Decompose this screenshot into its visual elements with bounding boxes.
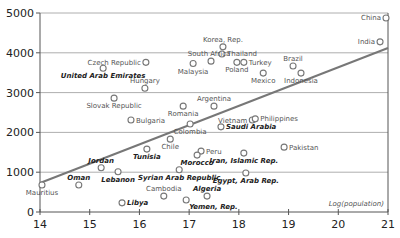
point-marker xyxy=(39,182,45,188)
point-marker xyxy=(190,61,196,67)
point-marker xyxy=(98,165,104,171)
point-label: Pakistan xyxy=(289,144,318,152)
point-marker xyxy=(115,169,121,175)
point-label: Egypt, Arab Rep. xyxy=(213,177,279,185)
point-marker xyxy=(144,146,150,152)
point-marker xyxy=(211,103,217,109)
point-label: Tunisia xyxy=(133,153,161,161)
point-marker xyxy=(218,124,224,130)
point-marker xyxy=(161,193,167,199)
point-label: Lebanon xyxy=(101,176,135,184)
point-label: Czech Republic xyxy=(88,59,141,67)
x-tick-label: 21 xyxy=(381,218,395,231)
x-axis-title: Log(population) xyxy=(329,200,385,208)
point-label: Peru xyxy=(206,148,222,156)
point-marker xyxy=(290,63,296,69)
data-point: Romania xyxy=(168,103,199,118)
data-point: Oman xyxy=(67,174,90,188)
point-marker xyxy=(167,136,173,142)
data-point: Saudi Arabia xyxy=(218,123,277,131)
x-tick-label: 17 xyxy=(182,218,196,231)
data-point: Malaysia xyxy=(178,61,209,76)
point-marker xyxy=(298,70,304,76)
data-point: Tunisia xyxy=(133,146,161,161)
y-tick-label: 1000 xyxy=(6,166,34,179)
point-label: Chile xyxy=(161,143,179,151)
data-point: Hungary xyxy=(130,77,160,91)
point-marker xyxy=(383,15,389,21)
point-label: Jordan xyxy=(86,157,114,165)
point-label: Saudi Arabia xyxy=(226,123,277,131)
point-marker xyxy=(377,39,383,45)
point-marker xyxy=(111,95,117,101)
point-marker xyxy=(241,59,247,65)
x-tick-label: 19 xyxy=(282,218,296,231)
point-label: Mauritius xyxy=(26,189,59,197)
data-point: Yemen, Rep. xyxy=(183,197,238,211)
point-label: Hungary xyxy=(130,77,160,85)
data-point: Czech Republic xyxy=(88,59,149,67)
point-label: Colombia xyxy=(174,128,207,136)
point-label: India xyxy=(358,38,375,46)
data-point: Philippines xyxy=(252,115,298,123)
point-marker xyxy=(142,85,148,91)
point-label: Algeria xyxy=(192,185,221,193)
point-label: Korea, Rep. xyxy=(203,36,243,44)
point-label: Argentina xyxy=(197,95,231,103)
point-label: Bulgaria xyxy=(136,117,165,125)
point-label: Turkey xyxy=(248,59,272,67)
point-marker xyxy=(234,59,240,65)
data-point: Jordan xyxy=(86,157,114,171)
data-point: Mexico xyxy=(251,70,275,85)
point-label: China xyxy=(361,14,381,22)
data-points: ChinaIndiaKorea, Rep.ThailandSouth Afric… xyxy=(26,14,389,211)
data-point: China xyxy=(361,14,389,22)
data-point: Bulgaria xyxy=(128,117,165,125)
point-marker xyxy=(252,116,258,122)
point-label: Philippines xyxy=(260,115,298,123)
point-marker xyxy=(143,59,149,65)
y-tick-label: 4000 xyxy=(6,47,34,60)
point-marker xyxy=(180,103,186,109)
point-label: Syrian Arab Republic xyxy=(138,174,221,182)
point-marker xyxy=(281,144,287,150)
point-marker xyxy=(241,150,247,156)
point-label: Iran, Islamic Rep. xyxy=(210,157,279,165)
data-point: Slovak Republic xyxy=(86,95,141,110)
point-marker xyxy=(260,70,266,76)
data-point: Brazil xyxy=(283,55,303,69)
data-point: Peru xyxy=(198,148,222,156)
x-tick-label: 14 xyxy=(33,218,47,231)
data-point: Colombia xyxy=(174,121,207,136)
data-point: Argentina xyxy=(197,95,231,109)
point-marker xyxy=(220,44,226,50)
point-marker xyxy=(208,58,214,64)
axes: 0100020003000400050001415161718192021 xyxy=(6,7,395,231)
point-label: Romania xyxy=(168,110,199,118)
scatter-chart: 0100020003000400050001415161718192021 Ch… xyxy=(0,0,400,238)
data-point: Chile xyxy=(161,136,179,151)
point-marker xyxy=(100,65,106,71)
data-point: India xyxy=(358,38,383,46)
point-label: Indonesia xyxy=(284,77,318,85)
data-point: Cambodia xyxy=(146,185,181,199)
point-label: Slovak Republic xyxy=(86,102,141,110)
point-label: Mexico xyxy=(251,77,275,85)
point-marker xyxy=(176,167,182,173)
x-tick-label: 16 xyxy=(132,218,146,231)
point-marker xyxy=(128,117,134,123)
y-tick-label: 2000 xyxy=(6,126,34,139)
point-label: South Africa xyxy=(188,50,231,58)
point-label: Brazil xyxy=(283,55,303,63)
point-label: Cambodia xyxy=(146,185,181,193)
y-tick-label: 3000 xyxy=(6,87,34,100)
data-point: Indonesia xyxy=(284,70,318,85)
point-marker xyxy=(119,200,125,206)
point-label: Yemen, Rep. xyxy=(189,203,238,211)
x-tick-label: 15 xyxy=(83,218,97,231)
data-point: Mauritius xyxy=(26,182,59,197)
point-marker xyxy=(194,152,200,158)
point-marker xyxy=(243,170,249,176)
y-tick-label: 5000 xyxy=(6,7,34,20)
data-point: Korea, Rep. xyxy=(203,36,243,50)
